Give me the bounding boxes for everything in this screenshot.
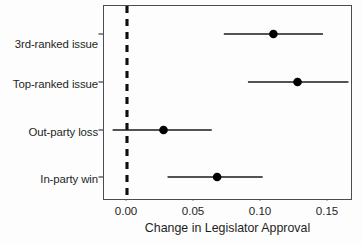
coefficient-plot-figure: 3rd-ranked issue Top-ranked issue Out-pa… — [0, 0, 363, 243]
point-estimate-marker — [269, 30, 278, 39]
y-axis-ticks — [99, 34, 104, 177]
point-estimate-marker — [213, 173, 222, 182]
series-change-in-legislator-approval — [113, 30, 349, 182]
plot-canvas — [0, 0, 363, 243]
point-estimate-marker — [293, 78, 302, 87]
point-estimate-marker — [159, 126, 168, 135]
x-axis-ticks — [126, 200, 327, 201]
